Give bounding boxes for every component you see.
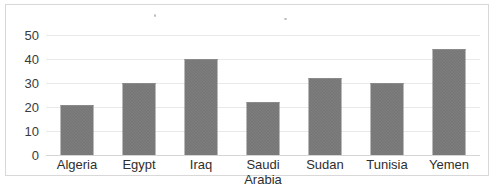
y-axis-tick-label: 0	[32, 149, 39, 162]
bar-slot	[108, 23, 170, 155]
x-axis-category-label: Iraq	[170, 157, 232, 172]
bar[interactable]	[123, 83, 156, 155]
bar-slot	[418, 23, 480, 155]
x-axis-category-label: Tunisia	[356, 157, 418, 172]
y-axis-tick-label: 10	[25, 125, 39, 138]
scan-speckle	[154, 14, 156, 17]
bar-slot	[170, 23, 232, 155]
axis-baseline	[46, 155, 480, 156]
x-axis-category-label: Saudi Arabia	[232, 157, 294, 187]
bar[interactable]	[247, 102, 280, 155]
bar[interactable]	[61, 105, 94, 155]
x-axis-category-labels: AlgeriaEgyptIraqSaudi ArabiaSudanTunisia…	[46, 157, 480, 194]
y-axis-tick-label: 20	[25, 101, 39, 114]
bar[interactable]	[371, 83, 404, 155]
bar-series	[46, 23, 480, 155]
scan-speckle	[284, 18, 287, 20]
y-axis-tick-label: 50	[25, 29, 39, 42]
bar[interactable]	[309, 78, 342, 155]
x-axis-category-label: Yemen	[418, 157, 480, 172]
plot-area: 01020304050	[46, 23, 480, 155]
bar-slot	[356, 23, 418, 155]
x-axis-category-label: Sudan	[294, 157, 356, 172]
x-axis-category-label: Egypt	[108, 157, 170, 172]
bar-slot	[46, 23, 108, 155]
bar-slot	[294, 23, 356, 155]
bar[interactable]	[185, 59, 218, 155]
chart-frame: 01020304050 AlgeriaEgyptIraqSaudi Arabia…	[5, 4, 489, 176]
y-axis-tick-label: 40	[25, 53, 39, 66]
x-axis-category-label: Algeria	[46, 157, 108, 172]
bar[interactable]	[433, 49, 466, 155]
bar-slot	[232, 23, 294, 155]
y-axis-tick-label: 30	[25, 77, 39, 90]
